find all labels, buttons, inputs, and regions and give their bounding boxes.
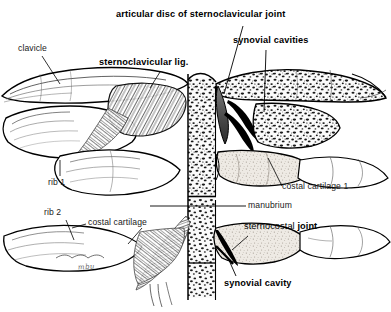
label-rib-2: rib 2 <box>44 208 61 217</box>
label-sternocostal-joint: sternocostal joint <box>244 222 317 232</box>
label-clavicle: clavicle <box>18 44 47 53</box>
clavicle-right <box>216 70 386 102</box>
label-sternocostal-prefix: sternocostal <box>244 221 297 231</box>
label-synovial-cavity: synovial cavity <box>224 279 292 289</box>
rib-1-left <box>55 150 180 195</box>
manubrium-bone <box>188 74 216 300</box>
radiate-sternocostal-ligament <box>134 216 190 307</box>
illustration-canvas <box>0 0 391 312</box>
label-costal-cartilage: costal cartilage <box>88 218 147 227</box>
label-joint-word: joint <box>297 221 317 231</box>
clavicle-right-medial-block <box>253 103 340 148</box>
label-sternoclavicular-lig: sternoclavicular lig. <box>99 58 188 68</box>
label-synovial-cavities: synovial cavities <box>233 36 309 46</box>
rib-2-left <box>4 225 142 271</box>
artist-signature: mbu <box>78 263 95 272</box>
label-costal-cartilage-1: costal cartilage 1 <box>282 182 348 191</box>
label-rib-1: rib 1 <box>48 178 65 187</box>
anatomical-figure: articular disc of sternoclavicular joint… <box>0 0 391 312</box>
label-manubrium: manubrium <box>248 201 292 210</box>
label-articular-disc: articular disc of sternoclavicular joint <box>116 10 285 20</box>
